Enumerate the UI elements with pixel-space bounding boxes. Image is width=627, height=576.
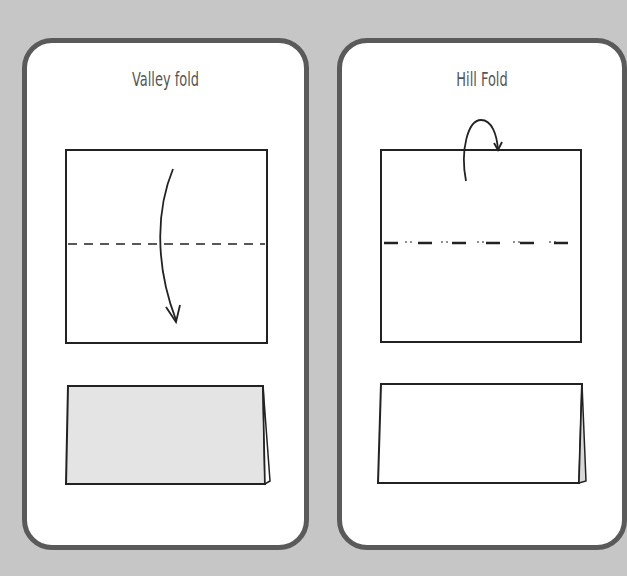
hill-fold-square	[381, 150, 581, 342]
hill-fold-result	[378, 384, 586, 483]
valley-fold-square	[66, 150, 267, 343]
valley-fold-result	[66, 386, 270, 484]
